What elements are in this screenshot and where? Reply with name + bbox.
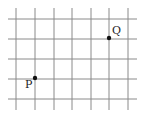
points-layer: P Q <box>25 24 121 91</box>
point-p-label: P <box>25 78 33 91</box>
point-q-marker <box>107 36 111 40</box>
grid-diagram: P Q <box>0 0 146 118</box>
point-p-marker <box>33 76 37 80</box>
point-q-label: Q <box>112 24 121 37</box>
